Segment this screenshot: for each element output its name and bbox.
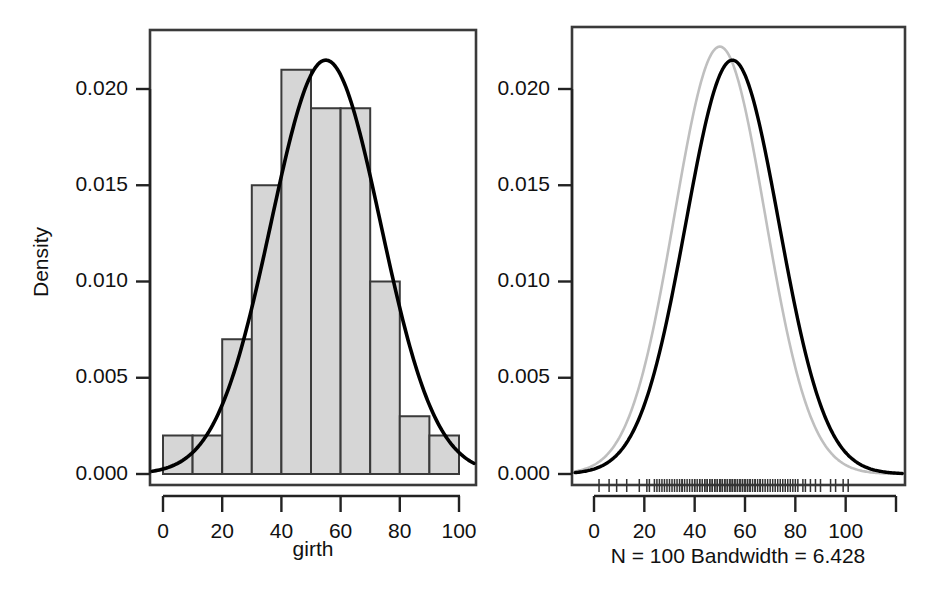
right-x-tick-label: 60 bbox=[733, 519, 756, 542]
left-x-tick-label: 0 bbox=[157, 519, 169, 542]
left-x-axis: 020406080100 bbox=[157, 496, 476, 542]
right-x-tick-label: 80 bbox=[784, 519, 807, 542]
left-y-tick-label-0005: 0.005 bbox=[75, 364, 128, 387]
left-y-tick-label-0000: 0.000 bbox=[75, 461, 128, 484]
right-y-tick-label-0000: 0.000 bbox=[497, 461, 550, 484]
right-x-tick-label: 20 bbox=[633, 519, 656, 542]
right-panel-caption: N = 100 Bandwidth = 6.428 bbox=[611, 544, 866, 567]
normal-reference-density-curve bbox=[575, 47, 902, 474]
right-x-tick-label: 40 bbox=[683, 519, 706, 542]
left-x-tick-label: 100 bbox=[441, 519, 476, 542]
left-y-tick-label-0020: 0.020 bbox=[75, 76, 128, 99]
right-x-tick-label: 0 bbox=[588, 519, 600, 542]
left-y-tick-label-0010: 0.010 bbox=[75, 268, 128, 291]
right-y-tick-label-0015: 0.015 bbox=[497, 172, 550, 195]
left-panel-histogram: 0.020 0.015 0.010 0.005 0.000 0204060801… bbox=[29, 30, 477, 560]
left-x-tick-label: 40 bbox=[270, 519, 293, 542]
histogram-bar bbox=[429, 436, 459, 475]
left-y-axis-title: Density bbox=[29, 226, 52, 297]
right-x-tick-label: 100 bbox=[828, 519, 863, 542]
right-x-axis: 020406080100 bbox=[588, 496, 896, 542]
histogram-bar bbox=[400, 416, 430, 474]
right-y-tick-label-0010: 0.010 bbox=[497, 268, 550, 291]
statistical-figure: 0.020 0.015 0.010 0.005 0.000 0204060801… bbox=[0, 0, 946, 599]
histogram-bars bbox=[163, 70, 459, 474]
right-y-tick-label-0005: 0.005 bbox=[497, 364, 550, 387]
figure-canvas: 0.020 0.015 0.010 0.005 0.000 0204060801… bbox=[0, 0, 946, 599]
right-y-tick-label-0020: 0.020 bbox=[497, 76, 550, 99]
histogram-bar bbox=[252, 185, 282, 474]
right-x-tick-marks bbox=[594, 496, 896, 512]
left-x-tick-label: 80 bbox=[388, 519, 411, 542]
kernel-density-curve bbox=[575, 60, 902, 473]
right-y-axis: 0.020 0.015 0.010 0.005 0.000 bbox=[497, 76, 572, 484]
right-plot-frame bbox=[572, 27, 905, 485]
left-y-tick-label-0015: 0.015 bbox=[75, 172, 128, 195]
left-x-tick-marks bbox=[163, 496, 459, 512]
histogram-bar bbox=[281, 70, 311, 474]
left-x-axis-title: girth bbox=[293, 537, 334, 560]
left-x-tick-label: 20 bbox=[211, 519, 234, 542]
histogram-bar bbox=[193, 436, 223, 475]
left-y-axis: 0.020 0.015 0.010 0.005 0.000 bbox=[75, 76, 150, 484]
histogram-bar bbox=[370, 282, 400, 475]
right-x-tick-labels: 020406080100 bbox=[588, 519, 863, 542]
histogram-bar bbox=[311, 108, 341, 474]
right-panel-density: 0.020 0.015 0.010 0.005 0.000 0204060801… bbox=[497, 27, 905, 567]
